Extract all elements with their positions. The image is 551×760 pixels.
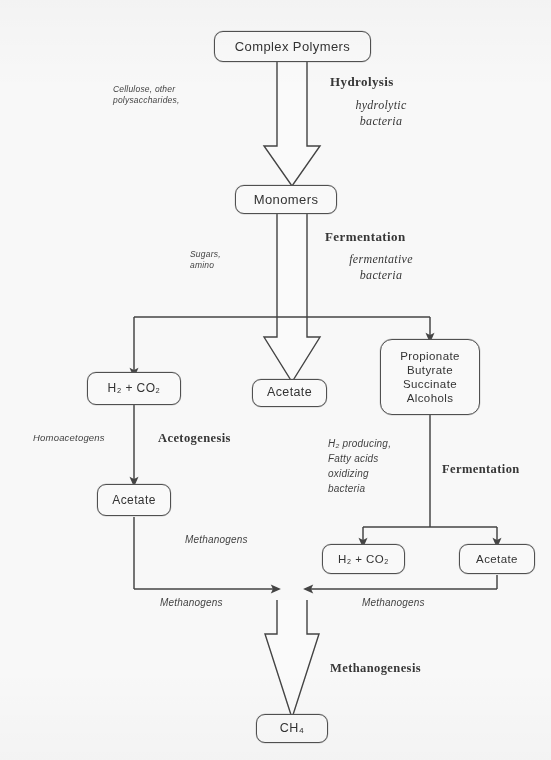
node-acetate-center[interactable]: Acetate [252,379,327,407]
label-substrate-polymers: Cellulose, other polysaccharides, [113,84,233,106]
node-organic-acids-line-1: Propionate [400,349,460,363]
block-arrow-methanogenesis [265,600,319,718]
label-stage-methanogenesis: Methanogenesis [330,660,421,676]
node-h2-co2-left-label: H₂ + CO₂ [108,381,161,396]
node-h2-co2-right[interactable]: H₂ + CO₂ [322,544,405,574]
label-stage-hydrolysis: Hydrolysis [330,74,394,91]
node-acetate-left[interactable]: Acetate [97,484,171,516]
node-h2-co2-right-label: H₂ + CO₂ [338,552,389,566]
node-monomers-label: Monomers [254,192,319,208]
node-acetate-left-label: Acetate [112,493,156,508]
label-h2-producing-bacteria: H₂ producing, Fatty acids oxidizing bact… [328,436,424,496]
node-complex-polymers-label: Complex Polymers [235,39,350,55]
label-methanogens-left: Methanogens [160,596,223,609]
node-methane-label: CH₄ [280,721,304,736]
node-organic-acids-right[interactable]: Propionate Butyrate Succinate Alcohols [380,339,480,415]
node-organic-acids-line-2: Butyrate [407,363,453,377]
label-homoacetogens: Homoacetogens [33,432,105,444]
node-methane[interactable]: CH₄ [256,714,328,743]
node-h2-co2-left[interactable]: H₂ + CO₂ [87,372,181,405]
label-stage-acetogenesis: Acetogenesis [158,430,231,446]
label-methanogens-right: Methanogens [362,596,425,609]
node-organic-acids-line-4: Alcohols [407,391,454,405]
node-acetate-center-label: Acetate [267,385,312,400]
label-stage-fermentation: Fermentation [325,229,406,246]
label-hydrolytic-bacteria: hydrolytic bacteria [340,98,422,129]
node-organic-acids-line-3: Succinate [403,377,457,391]
node-acetate-right[interactable]: Acetate [459,544,535,574]
block-arrow-fermentation [264,213,320,382]
diagram-page: Complex Polymers Monomers H₂ + CO₂ Aceta… [0,0,551,760]
label-substrate-monomers: Sugars, amino [190,249,270,271]
block-arrow-hydrolysis [264,62,320,186]
node-monomers[interactable]: Monomers [235,185,337,214]
label-stage-fermentation-right: Fermentation [442,461,520,477]
node-complex-polymers[interactable]: Complex Polymers [214,31,371,62]
label-methanogens-center: Methanogens [185,533,248,546]
node-acetate-right-label: Acetate [476,552,518,566]
label-fermentative-bacteria: fermentative bacteria [326,252,436,283]
